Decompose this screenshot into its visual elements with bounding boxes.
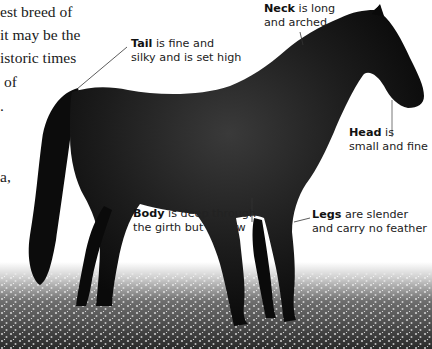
annotation-tail-term: Tail [131,37,152,50]
annotation-tail: Tail is fine and silky and is set high [131,37,241,65]
annotation-legs-term: Legs [312,208,341,221]
annotation-neck: Neck is long and arched [264,2,335,30]
intro-line-3: istoric times [0,46,76,70]
annotation-body: Body is deep through the girth but narro… [133,207,256,235]
horse-ear [372,4,384,16]
intro-line-4: of [4,70,17,94]
annotation-neck-line2: and arched [264,16,335,30]
annotation-tail-line2: silky and is set high [131,51,241,65]
intro-line-1: est breed of [0,0,72,24]
annotation-head-term: Head [349,126,382,139]
horse-body [70,5,424,326]
annotation-body-term: Body [133,207,165,220]
page: est breed of it may be the istoric times… [0,0,432,349]
intro-line-2: it may be the [0,23,81,47]
intro-line-5: . [0,94,4,118]
annotation-neck-term: Neck [264,2,295,15]
intro-line-8: a, [0,165,11,189]
annotation-legs: Legs are slender and carry no feather [312,208,427,236]
annotation-head: Head is small and fine [349,126,428,154]
annotation-head-line2: small and fine [349,140,428,154]
annotation-body-line2: the girth but narrow [133,221,256,235]
annotation-legs-line2: and carry no feather [312,222,427,236]
